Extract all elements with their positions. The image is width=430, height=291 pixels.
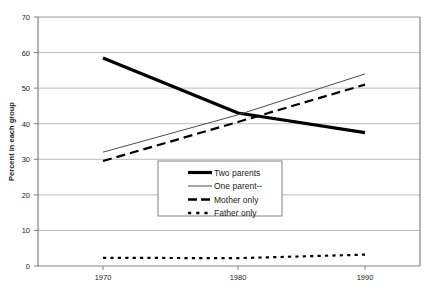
chart-container: 70 60 50 40 30 20 10 0 Percent in each g… (0, 0, 430, 291)
x-tick-label-1990: 1990 (357, 273, 374, 282)
line-chart: 70 60 50 40 30 20 10 0 Percent in each g… (0, 0, 430, 291)
legend-label-mother-only: Mother only (214, 195, 259, 205)
legend-label-one-parent: One parent-- (214, 181, 262, 191)
y-tick-label-10: 10 (22, 226, 30, 235)
y-tick-label-20: 20 (22, 191, 30, 200)
y-tick-label-70: 70 (22, 13, 30, 22)
legend-label-two-parents: Two parents (214, 168, 260, 178)
y-tick-label-50: 50 (22, 84, 30, 93)
y-tick-label-0: 0 (26, 262, 30, 271)
chart-legend[interactable]: Two parents One parent-- Mother only Fat… (158, 161, 282, 218)
x-tick-label-1970: 1970 (95, 273, 112, 282)
plot-area-background (38, 17, 420, 266)
y-tick-label-60: 60 (22, 49, 30, 58)
y-tick-label-30: 30 (22, 155, 30, 164)
y-axis-title: Percent in each group (7, 102, 16, 181)
y-tick-label-40: 40 (22, 120, 30, 129)
x-tick-label-1980: 1980 (230, 273, 247, 282)
legend-label-father-only: Father only (214, 208, 257, 218)
